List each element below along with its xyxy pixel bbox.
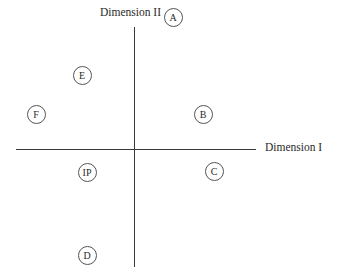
point-f: F [27, 105, 46, 124]
point-c: C [205, 162, 224, 181]
point-a: A [164, 8, 183, 27]
point-b: B [194, 105, 213, 124]
x-axis-label: Dimension I [265, 141, 322, 153]
dimension-ii-axis [134, 27, 135, 267]
point-ip: IP [78, 163, 97, 182]
point-d: D [78, 246, 97, 265]
dimension-i-axis [16, 149, 256, 150]
y-axis-label: Dimension II [100, 6, 161, 18]
point-e: E [73, 66, 92, 85]
